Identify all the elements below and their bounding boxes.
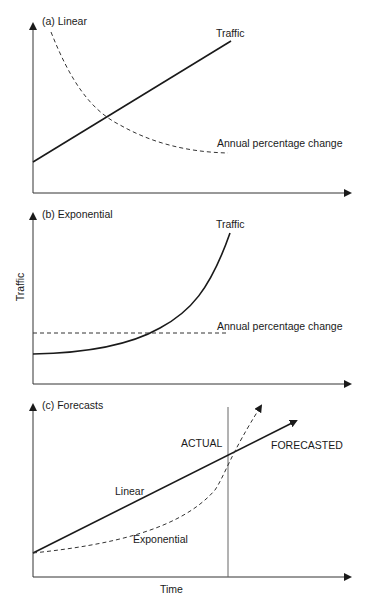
panel-c	[33, 405, 350, 577]
diagram-canvas	[0, 0, 367, 607]
apc-label-b: Annual percentage change	[217, 320, 343, 332]
panel-a	[33, 24, 350, 193]
traffic-curve-b	[33, 233, 230, 354]
panel-a-title: (a) Linear	[42, 15, 87, 27]
traffic-label-b: Traffic	[216, 218, 245, 230]
traffic-label-a: Traffic	[216, 27, 245, 39]
panel-c-title: (c) Forecasts	[42, 399, 103, 411]
y-axis-label: Traffic	[14, 273, 26, 302]
exponential-label: Exponential	[133, 533, 188, 545]
apc-label-a: Annual percentage change	[217, 137, 343, 149]
actual-label: ACTUAL	[181, 437, 222, 449]
x-axis-label: Time	[160, 583, 183, 595]
forecasted-label: FORECASTED	[271, 439, 343, 451]
panel-b	[33, 214, 350, 384]
panel-b-title: (b) Exponential	[42, 208, 113, 220]
linear-label: Linear	[115, 485, 144, 497]
exponential-forecast-curve	[33, 406, 261, 553]
